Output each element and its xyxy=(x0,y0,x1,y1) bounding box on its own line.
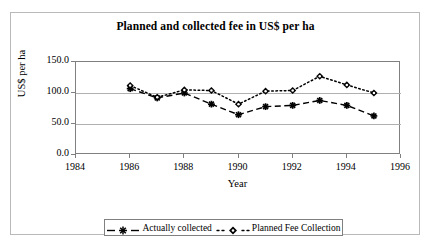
x-tick-label: 1992 xyxy=(272,161,312,172)
y-tick-label: 150.0 xyxy=(31,54,69,65)
y-tick-label: 0.0 xyxy=(31,147,69,158)
data-point-marker-diamond xyxy=(262,88,269,95)
y-tick-label: 50.0 xyxy=(31,116,69,127)
data-point-marker-diamond xyxy=(343,81,350,88)
data-point-marker-asterisk xyxy=(208,101,215,108)
plot-series-svg xyxy=(76,62,401,155)
data-point-marker-asterisk xyxy=(343,102,350,109)
y-tick-label: 100.0 xyxy=(31,85,69,96)
data-point-marker-asterisk xyxy=(371,113,378,120)
data-point-marker-asterisk xyxy=(262,103,269,110)
chart-figure: Planned and collected fee in US$ per ha … xyxy=(0,0,431,247)
data-point-marker-asterisk xyxy=(235,111,242,118)
x-tick-label: 1986 xyxy=(109,161,149,172)
legend-label-actually-collected: Actually collected xyxy=(142,223,211,233)
data-point-marker-asterisk xyxy=(289,102,296,109)
x-tick-label: 1984 xyxy=(55,161,95,172)
chart-title: Planned and collected fee in US$ per ha xyxy=(0,20,431,32)
legend-marker-diamond-icon xyxy=(216,222,250,233)
data-point-marker-asterisk xyxy=(316,97,323,104)
legend-marker-asterisk-icon xyxy=(106,222,140,233)
data-point-marker-diamond xyxy=(316,73,323,80)
x-axis-title: Year xyxy=(75,178,400,189)
x-tick-label: 1988 xyxy=(163,161,203,172)
data-point-marker-diamond xyxy=(370,89,377,96)
legend-entry-actually-collected: Actually collected xyxy=(106,222,211,233)
x-tick-label: 1996 xyxy=(380,161,420,172)
y-axis-title: US$ per ha xyxy=(16,19,27,129)
series-line-1 xyxy=(130,76,374,104)
x-tick-label: 1994 xyxy=(326,161,366,172)
legend-label-planned-fee-collection: Planned Fee Collection xyxy=(252,223,341,233)
data-point-marker-diamond xyxy=(235,101,242,108)
plot-area xyxy=(75,61,400,154)
x-tick-label: 1990 xyxy=(218,161,258,172)
chart-legend: Actually collected Planned Fee Collectio… xyxy=(104,219,343,236)
legend-entry-planned-fee-collection: Planned Fee Collection xyxy=(216,222,341,233)
